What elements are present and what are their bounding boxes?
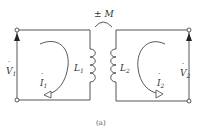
v2-dot: ·: [182, 60, 184, 68]
v2-arrow-icon: [186, 33, 192, 41]
terminal-left-bottom: [15, 98, 19, 102]
inductor-l2-coil: [111, 49, 116, 82]
l1-label: L1: [73, 63, 84, 74]
l2-label: L2: [119, 63, 130, 74]
i1-arrow-icon: [44, 91, 51, 98]
v1-arrow-icon: [14, 33, 20, 41]
v1-dot: ·: [8, 58, 10, 66]
terminal-right-bottom: [187, 99, 191, 103]
terminal-left-top: [15, 28, 19, 32]
i2-label: I2: [156, 78, 165, 89]
i1-label: I1: [39, 78, 47, 89]
figure-caption: (a): [96, 119, 106, 127]
inductor-l1-coil: [90, 49, 95, 82]
v1-label: V1: [6, 66, 16, 77]
mutual-coupling-arc: [95, 22, 112, 27]
coupled-inductor-circuit: ± M V1 · L1 I1 · L2 I2 · V2 · (a): [0, 0, 207, 135]
mutual-inductance-label: ± M: [94, 9, 114, 19]
i1-dot: ·: [41, 70, 43, 78]
i2-arrow-icon: [156, 90, 163, 98]
i2-dot: ·: [158, 70, 160, 78]
terminal-right-top: [187, 28, 191, 32]
